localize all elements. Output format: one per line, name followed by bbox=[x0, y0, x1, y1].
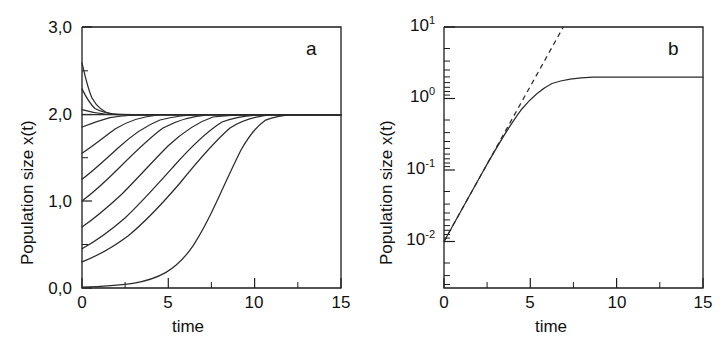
panel-b-ytick-label-2: 100 bbox=[379, 87, 435, 107]
panel-a-ytick-label-3: 3,0 bbox=[20, 18, 72, 38]
panel-b-y-major-ticks bbox=[444, 27, 455, 242]
panel-a: 3,0 2,0 1,0 0,0 0 5 10 15 time Populatio… bbox=[0, 0, 361, 344]
panel-a-frame bbox=[82, 27, 341, 288]
panel-b-xtick-label-0: 0 bbox=[424, 293, 464, 313]
panel-b-ytick-exponent-1: -1 bbox=[425, 157, 435, 169]
figure-container: 3,0 2,0 1,0 0,0 0 5 10 15 time Populatio… bbox=[0, 0, 722, 344]
panel-b-ytick-mantissa-3: 10 bbox=[410, 16, 429, 35]
panel-b-xtick-label-1: 5 bbox=[510, 293, 550, 313]
panel-b-yaxis-title: Population size x(t) bbox=[377, 120, 397, 265]
panel-a-letter: a bbox=[306, 38, 317, 60]
panel-b-ytick-exponent-3: 1 bbox=[429, 14, 435, 26]
panel-b-frame bbox=[444, 27, 703, 288]
panel-b: 101 100 10-1 10-2 0 5 10 15 time Populat… bbox=[361, 0, 722, 344]
panel-b-letter: b bbox=[668, 38, 679, 60]
panel-b-logistic-solution bbox=[444, 77, 703, 242]
panel-b-y-minor-ticks bbox=[444, 49, 450, 285]
panel-a-xtick-label-1: 5 bbox=[148, 293, 188, 313]
panel-b-ytick-exponent-2: 0 bbox=[429, 85, 435, 97]
panel-b-xtick-label-3: 15 bbox=[683, 293, 722, 313]
panel-a-x-minor-ticks bbox=[125, 282, 298, 288]
panel-b-xtick-label-2: 10 bbox=[597, 293, 637, 313]
panel-b-ytick-label-3: 101 bbox=[379, 16, 435, 36]
panel-a-y-minor-ticks bbox=[82, 71, 88, 245]
panel-a-xtick-label-3: 15 bbox=[321, 293, 361, 313]
panel-a-xtick-label-0: 0 bbox=[62, 293, 102, 313]
panel-b-ytick-mantissa-0: 10 bbox=[406, 230, 425, 249]
panel-a-xaxis-title: time bbox=[172, 317, 204, 337]
panel-a-yaxis-title: Population size x(t) bbox=[18, 120, 38, 265]
panel-b-ytick-mantissa-2: 10 bbox=[410, 87, 429, 106]
panel-b-ytick-mantissa-1: 10 bbox=[406, 159, 425, 178]
panel-b-x-minor-ticks bbox=[487, 282, 660, 288]
panel-b-xaxis-title: time bbox=[535, 317, 567, 337]
panel-a-xtick-label-2: 10 bbox=[234, 293, 274, 313]
panel-a-curves bbox=[82, 63, 341, 287]
panel-b-ytick-exponent-0: -2 bbox=[425, 228, 435, 240]
